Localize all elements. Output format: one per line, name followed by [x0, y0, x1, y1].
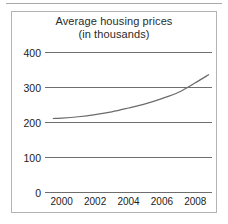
top-divider-rule	[6, 3, 222, 4]
y-axis-tick-label: 0	[35, 187, 41, 199]
plot-area: 010020030040020002002200420062008	[45, 52, 212, 192]
x-axis-tick-label: 2006	[151, 196, 173, 207]
figure-root: Average housing prices (in thousands) 01…	[0, 0, 228, 224]
x-axis-tick-label: 2000	[51, 196, 73, 207]
x-axis-tick-label: 2004	[117, 196, 139, 207]
gridline-100: 100	[45, 157, 212, 158]
gridline-300: 300	[45, 87, 212, 88]
chart-frame: Average housing prices (in thousands) 01…	[11, 11, 217, 213]
y-axis-tick-label: 300	[23, 82, 41, 94]
gridline-0: 0	[45, 192, 212, 193]
series-line-chart	[45, 16, 212, 192]
series-line-path	[53, 75, 208, 119]
x-axis-tick-label: 2002	[84, 196, 106, 207]
gridline-400: 400	[45, 52, 212, 53]
x-axis-tick-label: 2008	[184, 196, 206, 207]
y-axis-tick-label: 200	[23, 117, 41, 129]
gridline-200: 200	[45, 122, 212, 123]
y-axis-tick-label: 100	[23, 152, 41, 164]
y-axis-tick-label: 400	[23, 47, 41, 59]
